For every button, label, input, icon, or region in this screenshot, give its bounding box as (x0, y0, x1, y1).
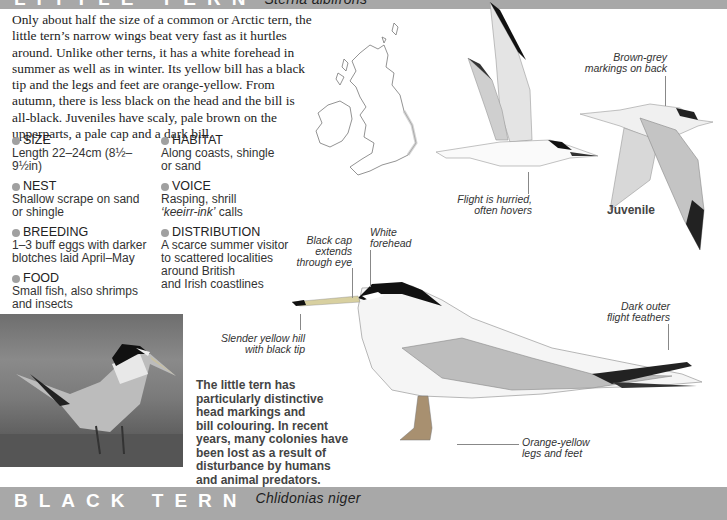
latin-name: Sterna albifrons (264, 0, 367, 7)
bullet-icon (12, 137, 20, 145)
voice-call: ‘keeirr-ink’ (161, 205, 215, 219)
fact-size: SIZE Length 22–24cm (8½–9½in) (12, 134, 162, 173)
leader-line-brown-grey (665, 76, 666, 106)
juvenile-label: Juvenile (607, 204, 655, 218)
photo-caption: The little tern has particularly distinc… (196, 379, 348, 487)
fact-breeding: BREEDING 1–3 buff eggs with darker blotc… (12, 226, 162, 265)
species-header-little-tern: LITTLE TERN Sterna albifrons (0, 0, 727, 9)
species-header-black-tern: BLACK TERN Chlidonias niger (0, 487, 727, 520)
fact-text: Along coasts, shingle or sand (161, 147, 291, 173)
bullet-icon (12, 229, 20, 237)
bullet-icon (12, 275, 20, 283)
fact-text: Length 22–24cm (8½–9½in) (12, 147, 162, 173)
distribution-map (300, 15, 430, 185)
facts-left-column: SIZE Length 22–24cm (8½–9½in) NEST Shall… (12, 134, 162, 318)
fact-nest: NEST Shallow scrape on sand or shingle (12, 180, 162, 219)
bullet-icon (12, 183, 20, 191)
intro-paragraph: Only about half the size of a common or … (12, 12, 312, 142)
caption-bill: Slender yellow hill with black tip (205, 333, 305, 355)
fact-distribution: DISTRIBUTION A scarce summer visitor to … (161, 226, 291, 291)
leader-line-bill (300, 314, 301, 330)
fact-text: Shallow scrape on sand or shingle (12, 193, 162, 219)
fact-text: Rasping, shrill ‘keeirr-ink’ calls (161, 193, 291, 219)
fact-voice: VOICE Rasping, shrill ‘keeirr-ink’ calls (161, 180, 291, 219)
caption-white-forehead: White forehead (370, 227, 411, 249)
leader-line-black-cap (352, 268, 353, 298)
fact-text: Small fish, also shrimps and insects (12, 285, 162, 311)
leader-line-white-forehead (370, 250, 371, 287)
fact-text: 1–3 buff eggs with darker blotches laid … (12, 239, 162, 265)
bullet-icon (161, 183, 169, 191)
caption-legs: Orange-yellow legs and feet (522, 437, 590, 459)
common-name: BLACK TERN (14, 490, 248, 512)
facts-right-column: HABITAT Along coasts, shingle or sand VO… (161, 134, 291, 298)
voice-text: Rasping, shrill (161, 192, 236, 206)
common-name: LITTLE TERN (14, 0, 256, 10)
caption-brown-grey: Brown-grey markings on back (580, 52, 667, 74)
leader-line-flight (528, 172, 529, 194)
juvenile-tern-illustration (580, 100, 713, 250)
little-tern-photo (0, 314, 183, 467)
bullet-icon (161, 229, 169, 237)
leader-line-dark-outer (668, 324, 669, 350)
fact-food: FOOD Small fish, also shrimps and insect… (12, 272, 162, 311)
caption-flight: Flight is hurried, often hovers (440, 194, 532, 216)
caption-black-cap: Black cap extends through eye (296, 235, 352, 268)
bullet-icon (161, 137, 169, 145)
latin-name: Chlidonias niger (256, 490, 361, 506)
voice-text-end: calls (215, 205, 242, 219)
caption-dark-outer: Dark outer flight feathers (600, 301, 670, 323)
fact-habitat: HABITAT Along coasts, shingle or sand (161, 134, 291, 173)
leader-line-legs (457, 444, 519, 445)
fact-text: A scarce summer visitor to scattered loc… (161, 239, 291, 291)
